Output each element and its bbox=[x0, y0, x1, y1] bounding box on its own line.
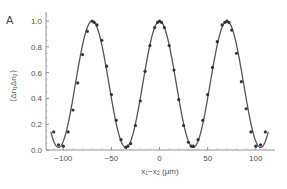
data-point bbox=[129, 142, 132, 145]
data-point bbox=[126, 145, 129, 148]
data-point bbox=[259, 143, 262, 146]
data-point bbox=[227, 21, 230, 24]
y-axis-label: ⟨Δn₁Δn₂⟩ bbox=[9, 70, 18, 101]
data-point bbox=[201, 119, 204, 122]
x-tick-label: −100 bbox=[54, 154, 73, 163]
data-point bbox=[52, 130, 55, 133]
data-point bbox=[119, 138, 122, 141]
data-point bbox=[148, 44, 151, 47]
y-tick-label: 0.2 bbox=[31, 120, 43, 129]
chart: A 0.00.20.40.60.81.0−100−50050100 x₁−x₂ … bbox=[0, 0, 287, 189]
data-point bbox=[254, 145, 257, 148]
data-point bbox=[100, 39, 103, 42]
data-point bbox=[220, 23, 223, 26]
data-point bbox=[139, 99, 142, 102]
x-tick-label: 0 bbox=[157, 154, 162, 163]
y-tick-label: 0.0 bbox=[31, 146, 43, 155]
y-tick-label: 0.8 bbox=[31, 43, 43, 52]
data-point bbox=[57, 143, 60, 146]
data-point bbox=[211, 66, 214, 69]
y-tick-label: 0.4 bbox=[31, 94, 43, 103]
data-point bbox=[187, 141, 190, 144]
data-point bbox=[134, 124, 137, 127]
data-point bbox=[160, 21, 163, 24]
data-point bbox=[240, 80, 243, 83]
data-point bbox=[264, 130, 267, 133]
data-point bbox=[206, 93, 209, 96]
data-point bbox=[86, 30, 89, 33]
x-tick-label: 100 bbox=[249, 154, 263, 163]
data-point bbox=[235, 52, 238, 55]
data-point bbox=[177, 98, 180, 101]
data-point bbox=[76, 81, 79, 84]
data-point bbox=[67, 130, 70, 133]
panel-label: A bbox=[6, 14, 14, 26]
data-point bbox=[192, 145, 195, 148]
data-point bbox=[105, 65, 108, 68]
data-point bbox=[144, 70, 147, 73]
data-point bbox=[110, 93, 113, 96]
data-point bbox=[81, 53, 84, 56]
data-point bbox=[182, 124, 185, 127]
data-point bbox=[230, 28, 233, 31]
fit-line-series bbox=[51, 21, 268, 147]
data-point bbox=[168, 44, 171, 47]
data-point bbox=[163, 26, 166, 29]
y-tick-label: 1.0 bbox=[31, 17, 43, 26]
data-point bbox=[62, 145, 65, 148]
fit-line bbox=[51, 21, 268, 147]
data-point bbox=[172, 68, 175, 71]
data-point bbox=[93, 21, 96, 24]
data-point bbox=[71, 108, 74, 111]
data-point bbox=[115, 119, 118, 122]
data-point bbox=[153, 26, 156, 29]
x-tick-label: −50 bbox=[105, 154, 119, 163]
data-point bbox=[245, 107, 248, 110]
data-point bbox=[95, 23, 98, 26]
x-tick-label: 50 bbox=[203, 154, 212, 163]
data-point bbox=[196, 138, 199, 141]
y-tick-label: 0.6 bbox=[31, 69, 43, 78]
data-point bbox=[216, 40, 219, 43]
x-axis-label: x₁−x₂ (μm) bbox=[141, 167, 179, 176]
data-point bbox=[249, 130, 252, 133]
